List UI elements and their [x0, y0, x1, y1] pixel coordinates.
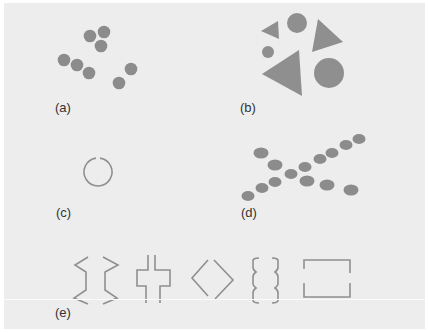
- shape-diamond: [192, 260, 233, 299]
- figure-graphics: [0, 0, 429, 333]
- panel-c-label: (c): [56, 205, 71, 220]
- panel-a-label: (a): [55, 100, 71, 115]
- panel-c-circle: [84, 158, 112, 186]
- panel-e-label: (e): [55, 305, 71, 320]
- panel-d-label: (d): [241, 205, 257, 220]
- shape-bracket-hourglass: [74, 257, 118, 304]
- shape-braces: [253, 258, 278, 303]
- panel-b-label: (b): [240, 100, 256, 115]
- panel-d-dots: [242, 134, 366, 201]
- shape-bracket-cross: [137, 255, 170, 303]
- panel-e-shapes: [74, 255, 350, 304]
- divider-line: [4, 299, 425, 300]
- panel-b-shapes: [261, 13, 344, 96]
- panel-a-dots: [58, 26, 138, 90]
- shape-open-rectangle: [304, 260, 350, 297]
